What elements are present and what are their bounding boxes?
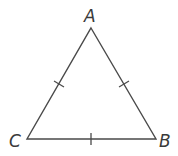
vertex-label-b: B (159, 131, 171, 151)
triangle-diagram: A B C (0, 0, 178, 156)
vertex-label-a: A (83, 6, 96, 26)
triangle-abc (27, 28, 156, 139)
tick-mark-ab (119, 81, 129, 87)
tick-mark-ac (54, 81, 64, 87)
vertex-label-c: C (9, 131, 21, 151)
